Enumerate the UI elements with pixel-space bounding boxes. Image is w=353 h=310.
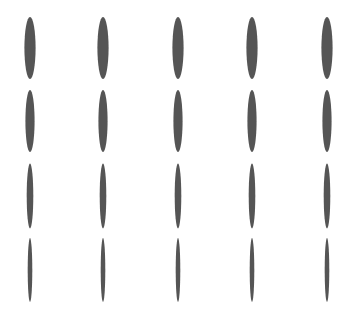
ellipse-row-3-narrow-col-1 bbox=[27, 164, 34, 229]
ellipse-row-4-narrowest-col-4 bbox=[250, 238, 255, 302]
ellipse-row-4-narrowest-col-5 bbox=[325, 238, 330, 302]
ellipse-row-4-narrowest-col-2 bbox=[101, 238, 106, 302]
ellipse-row-4-narrowest-col-3 bbox=[176, 238, 181, 302]
ellipse-row-3-narrow-col-2 bbox=[100, 164, 107, 229]
ellipse-row-4-narrowest-col-1 bbox=[28, 238, 33, 302]
ellipse-row-1-widest-col-2 bbox=[97, 17, 108, 79]
ellipse-row-3-narrow-col-3 bbox=[175, 164, 182, 229]
ellipse-row-2-wide-col-3 bbox=[173, 90, 182, 152]
ellipse-row-2-wide-col-4 bbox=[247, 90, 256, 152]
ellipse-row-2-wide-col-1 bbox=[25, 90, 34, 152]
stimulus-canvas bbox=[0, 0, 353, 310]
ellipse-row-3-narrow-col-5 bbox=[324, 164, 331, 229]
ellipse-row-1-widest-col-5 bbox=[321, 17, 332, 79]
ellipse-row-1-widest-col-1 bbox=[24, 17, 35, 79]
ellipse-row-3-narrow-col-4 bbox=[249, 164, 256, 229]
ellipse-row-1-widest-col-3 bbox=[172, 17, 183, 79]
ellipse-row-2-wide-col-2 bbox=[98, 90, 107, 152]
ellipse-grid-svg bbox=[0, 0, 353, 310]
ellipse-row-2-wide-col-5 bbox=[322, 90, 331, 152]
ellipse-row-1-widest-col-4 bbox=[246, 17, 257, 79]
